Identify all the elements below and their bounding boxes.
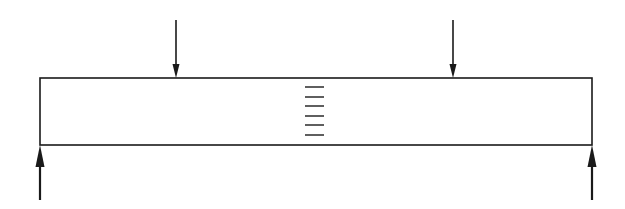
reaction-arrow-left-icon [36, 145, 45, 200]
beam-diagram [0, 0, 625, 209]
midspan-hatch-marks [305, 87, 324, 135]
load-arrow-right-icon [450, 20, 457, 78]
beam-diagram-svg [0, 0, 625, 209]
applied-loads [173, 20, 457, 78]
load-arrow-left-icon [173, 20, 180, 78]
reaction-arrow-right-icon [588, 145, 597, 200]
support-reactions [36, 145, 597, 200]
